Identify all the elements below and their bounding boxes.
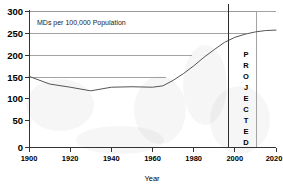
xtick-label-1960: 1960 <box>144 154 161 163</box>
ytick-label-200: 200 <box>7 50 23 61</box>
projected-letter-e2: E <box>243 127 248 136</box>
projected-letter-r: R <box>243 61 249 70</box>
projected-letter-d: D <box>243 138 249 147</box>
y-tick-labels: 300 250 200 150 100 50 0 <box>7 6 23 153</box>
xtick-label-1980: 1980 <box>185 154 202 163</box>
scan-texture <box>26 45 270 154</box>
projected-label: P R O J E C T E D <box>243 50 249 147</box>
series-caption: MDs per 100,000 Population <box>37 19 126 27</box>
xtick-label-2020: 2020 <box>266 154 283 163</box>
y-tick-marks <box>25 12 29 148</box>
md-density-line-chart: 300 250 200 150 100 50 0 1900 1920 1940 … <box>0 0 283 190</box>
ytick-label-50: 50 <box>12 115 23 126</box>
ytick-label-100: 100 <box>7 93 23 104</box>
ytick-label-300: 300 <box>7 6 23 17</box>
ytick-label-250: 250 <box>7 28 23 39</box>
chart-container: 300 250 200 150 100 50 0 1900 1920 1940 … <box>0 0 283 190</box>
projected-letter-e: E <box>243 94 248 103</box>
projected-letter-t: T <box>244 116 249 125</box>
projected-letter-o: O <box>243 72 249 81</box>
ytick-label-0: 0 <box>18 142 23 153</box>
x-tick-labels: 1900 1920 1940 1960 1980 2000 2020 <box>21 154 283 163</box>
ytick-label-150: 150 <box>7 72 23 83</box>
xtick-label-1900: 1900 <box>21 154 38 163</box>
xtick-label-1920: 1920 <box>62 154 79 163</box>
xtick-label-1940: 1940 <box>103 154 120 163</box>
x-axis-title: Year <box>144 174 160 183</box>
xtick-label-2000: 2000 <box>226 154 243 163</box>
projected-letter-p: P <box>243 50 248 59</box>
projected-letter-j: J <box>244 83 248 92</box>
projected-letter-c: C <box>243 105 249 114</box>
